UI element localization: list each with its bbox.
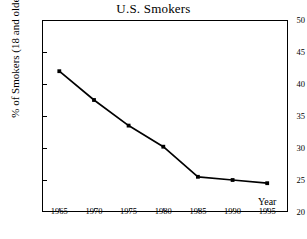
data-point-marker xyxy=(265,181,269,185)
data-point-marker xyxy=(161,145,165,149)
data-point-marker xyxy=(196,175,200,179)
data-point-marker xyxy=(231,178,235,182)
series-markers xyxy=(57,69,269,185)
series-polyline xyxy=(59,71,267,183)
data-series-line xyxy=(0,0,307,239)
data-point-marker xyxy=(92,98,96,102)
data-point-marker xyxy=(57,69,61,73)
chart-figure: U.S. Smokers % of Smokers (18 and older)… xyxy=(0,0,307,239)
data-point-marker xyxy=(127,124,131,128)
